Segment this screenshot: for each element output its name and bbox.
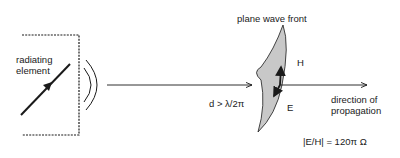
h-field-label: H [297, 57, 304, 68]
propagation-label-line1: direction of [331, 94, 381, 105]
e-field-label: E [287, 102, 293, 113]
wavefront-title: plane wave front [237, 13, 307, 24]
h-vector-icon [280, 67, 281, 85]
impedance-label: |E/H| = 120π Ω [303, 136, 367, 147]
source-label-line2: element [16, 65, 52, 76]
source-label-line1: radiating [16, 54, 52, 65]
diagram-canvas [0, 0, 400, 158]
propagation-label: direction of propagation [331, 94, 381, 116]
wavefront-shape [257, 25, 287, 132]
propagation-label-line2: propagation [331, 105, 381, 116]
distance-label: d > λ/2π [209, 98, 244, 109]
source-label: radiating element [16, 54, 52, 76]
emitted-waves-icon [84, 60, 97, 110]
